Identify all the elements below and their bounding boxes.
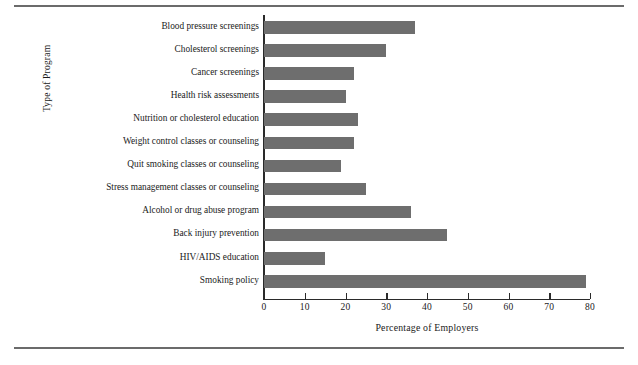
bar <box>264 21 415 34</box>
y-axis-title: Type of Program <box>42 45 53 112</box>
bar <box>264 275 586 288</box>
category-label: Alcohol or drug abuse program <box>4 205 264 216</box>
x-axis-title: Percentage of Employers <box>264 322 590 334</box>
x-axis-tick-label: 50 <box>448 302 488 313</box>
category-label: Quit smoking classes or counseling <box>4 159 264 170</box>
x-axis-tick-label: 60 <box>489 302 529 313</box>
x-axis-tick <box>386 293 387 299</box>
category-label: Stress management classes or counseling <box>4 182 264 193</box>
x-axis-tick-label: 40 <box>407 302 447 313</box>
bar <box>264 229 447 242</box>
x-axis-tick <box>549 293 550 299</box>
bar <box>264 137 354 150</box>
category-label: Weight control classes or counseling <box>4 136 264 147</box>
bar <box>264 67 354 80</box>
category-label-group: Blood pressure screeningsCholesterol scr… <box>0 0 264 300</box>
category-label: HIV/AIDS education <box>4 252 264 263</box>
category-label: Nutrition or cholesterol education <box>4 113 264 124</box>
x-axis-tick-label: 0 <box>244 302 284 313</box>
x-axis-tick-label: 30 <box>366 302 406 313</box>
bar <box>264 44 386 57</box>
bar <box>264 183 366 196</box>
category-label: Blood pressure screenings <box>4 21 264 32</box>
category-label: Smoking policy <box>4 275 264 286</box>
chart-figure: Blood pressure screeningsCholesterol scr… <box>0 0 638 365</box>
bar <box>264 206 411 219</box>
bottom-divider-rule <box>14 347 624 349</box>
bar <box>264 252 325 265</box>
x-axis-tick <box>346 293 347 299</box>
plot-area <box>264 16 590 299</box>
x-axis-tick <box>590 293 591 299</box>
x-axis-tick <box>427 293 428 299</box>
x-axis-tick-label: 10 <box>285 302 325 313</box>
x-axis-tick <box>468 293 469 299</box>
x-axis-tick-label: 80 <box>570 302 610 313</box>
x-axis-tick <box>305 293 306 299</box>
x-axis-tick <box>509 293 510 299</box>
bar <box>264 113 358 126</box>
x-axis-tick <box>264 293 265 299</box>
bar <box>264 90 346 103</box>
category-label: Back injury prevention <box>4 228 264 239</box>
x-axis-tick-label: 20 <box>326 302 366 313</box>
bar <box>264 160 341 173</box>
x-axis-tick-label: 70 <box>529 302 569 313</box>
